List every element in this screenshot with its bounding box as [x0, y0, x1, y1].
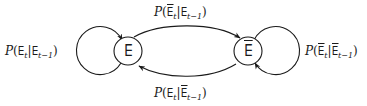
edge-not-exists-to-exists	[139, 64, 236, 76]
label-exists-to-not-exists: P(∃t|∃t−1)	[154, 5, 207, 19]
node-not-exists: ∃	[234, 37, 262, 65]
label-exists-to-exists: P(∃t|∃t−1)	[5, 44, 58, 58]
node-exists: ∃	[114, 37, 142, 65]
edge-exists-to-not-exists	[134, 26, 240, 38]
label-not-exists-to-exists: P(∃t|∃t−1)	[154, 86, 207, 100]
not-exists-symbol: ∃	[244, 37, 253, 65]
exists-symbol: ∃	[124, 37, 133, 65]
markov-chain-diagram: ∃ ∃ P(∃t|∃t−1) P(∃t|∃t−1) P(∃t|∃t−1) P(∃…	[0, 0, 367, 106]
label-not-exists-to-not-exists: P(∃t|∃t−1)	[305, 44, 358, 58]
